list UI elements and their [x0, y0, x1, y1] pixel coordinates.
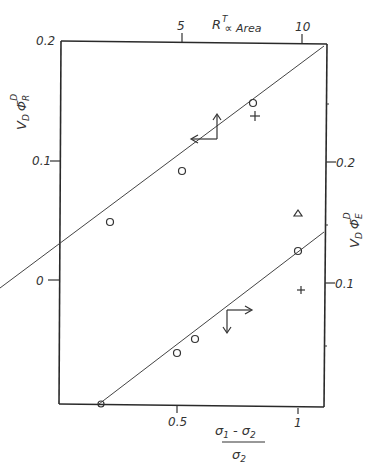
top-tick-5: 5: [177, 19, 185, 33]
bottom-tick-0.5: 0.5: [168, 415, 187, 429]
svg-text:σ2: σ2: [232, 447, 246, 464]
lower-fit-line: [99, 232, 324, 404]
lower-series-points: [98, 210, 305, 407]
right-tick-0.1: 0.1: [335, 277, 354, 291]
data-point-circle: [179, 168, 186, 175]
chart: 0.2 0.1 0 VDΦ̄RD 0.2 0.1 VDΦ̄ED 5 10: [0, 0, 381, 475]
upper-series-points: [107, 100, 261, 226]
left-axis-title: VDΦ̄RD: [9, 94, 31, 130]
right-axis: 0.2 0.1 VDΦ̄ED: [324, 104, 364, 346]
bottom-axis: 0.5 1 σ1-σ2 σ2: [168, 406, 302, 464]
top-tick-10: 10: [295, 20, 311, 34]
data-point-circle: [250, 100, 257, 107]
left-tick-0.2: 0.2: [36, 34, 55, 48]
left-tick-0.1: 0.1: [32, 154, 51, 168]
bottom-tick-1: 1: [294, 416, 302, 430]
plot-frame: [59, 41, 327, 407]
data-point-circle: [174, 350, 181, 357]
data-point-circle: [192, 336, 199, 343]
left-axis: 0.2 0.1 0 VDΦ̄RD: [9, 34, 60, 288]
right-axis-title: VDΦ̄ED: [342, 212, 364, 248]
svg-text:RT∝ Area: RT∝ Area: [212, 14, 262, 35]
top-axis: 5 10 RT∝ Area: [177, 14, 311, 43]
data-point-plus: [297, 286, 305, 294]
data-point-plus: [250, 111, 260, 121]
bottom-axis-title: σ1-σ2 σ2: [215, 423, 265, 464]
data-point-triangle: [294, 210, 302, 216]
left-tick-0: 0: [36, 274, 44, 288]
right-tick-0.2: 0.2: [336, 156, 355, 170]
upper-axis-arrows: [191, 114, 221, 143]
top-axis-title: RT∝ Area: [212, 14, 262, 35]
svg-text:VDΦ̄ED: VDΦ̄ED: [342, 212, 364, 248]
data-point-circle: [295, 248, 302, 255]
svg-text:σ1-σ2: σ1-σ2: [215, 423, 256, 440]
svg-text:VDΦ̄RD: VDΦ̄RD: [9, 94, 31, 130]
lower-axis-arrows: [223, 306, 252, 333]
data-point-circle: [107, 219, 114, 226]
